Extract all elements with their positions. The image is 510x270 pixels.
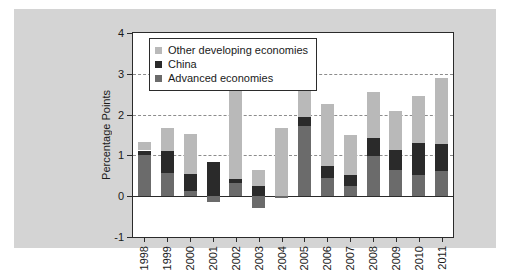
y-axis-title-text: Percentage Points <box>100 90 112 180</box>
bar-group-2006[interactable] <box>321 33 334 237</box>
chart-panel: Percentage Points 43210-1 19981999200020… <box>14 9 496 248</box>
y-tick-4 <box>127 33 133 34</box>
legend-swatch-icon <box>155 47 162 54</box>
x-tick-2003 <box>259 237 260 242</box>
x-tick-2007 <box>350 237 351 242</box>
bar-segment-2003-china <box>252 186 265 196</box>
bar-segment-2006-other-developing-economies <box>321 104 334 166</box>
x-tick-2004 <box>282 237 283 242</box>
legend-label: China <box>168 59 197 70</box>
legend-item-other-developing-economies[interactable]: Other developing economies <box>155 43 308 57</box>
plot-inner: 43210-1 19981999200020012002200320042005… <box>133 33 453 237</box>
y-axis-title: Percentage Points <box>100 32 112 238</box>
bar-segment-2003-other-developing-economies <box>252 170 265 187</box>
bar-segment-2011-china <box>435 144 448 171</box>
bar-segment-2005-china <box>298 117 311 126</box>
bar-segment-1999-other-developing-economies <box>161 128 174 150</box>
bar-segment-2010-china <box>412 143 425 175</box>
bar-group-2008[interactable] <box>367 33 380 237</box>
bar-segment-2002-china <box>229 179 242 183</box>
x-tick-2001 <box>213 237 214 242</box>
bar-segment-2005-advanced-economies <box>298 126 311 196</box>
legend-item-advanced-economies[interactable]: Advanced economies <box>155 71 308 85</box>
plot-area: 43210-1 19981999200020012002200320042005… <box>132 32 454 238</box>
zero-line <box>133 196 453 197</box>
x-tick-label-2008: 2008 <box>367 246 379 270</box>
y-tick-label--1: -1 <box>114 231 124 243</box>
x-tick-label-2009: 2009 <box>390 246 402 270</box>
bar-segment-2002-advanced-economies <box>229 183 242 196</box>
bar-group-2007[interactable] <box>344 33 357 237</box>
bar-segment-1998-other-developing-economies <box>138 142 151 151</box>
bar-segment-2011-other-developing-economies <box>435 78 448 145</box>
x-tick-label-1999: 1999 <box>161 246 173 270</box>
bar-segment-1999-advanced-economies <box>161 173 174 196</box>
y-tick-label-2: 2 <box>118 109 124 121</box>
x-tick-label-2000: 2000 <box>184 246 196 270</box>
x-tick-label-2010: 2010 <box>413 246 425 270</box>
x-tick-label-1998: 1998 <box>138 246 150 270</box>
y-tick-label-0: 0 <box>118 190 124 202</box>
bar-segment-2000-china <box>184 174 197 192</box>
x-tick-label-2007: 2007 <box>344 246 356 270</box>
bar-segment-2002-other-developing-economies <box>229 91 242 178</box>
bar-segment-2007-china <box>344 175 357 186</box>
x-tick-label-2006: 2006 <box>321 246 333 270</box>
x-tick-2006 <box>327 237 328 242</box>
legend-swatch-icon <box>155 61 162 68</box>
bar-segment-2000-other-developing-economies <box>184 134 197 174</box>
bar-segment-1998-china <box>138 151 151 156</box>
legend: Other developing economiesChinaAdvanced … <box>149 38 317 91</box>
legend-label: Other developing economies <box>168 45 308 56</box>
x-tick-2010 <box>419 237 420 242</box>
x-tick-label-2011: 2011 <box>436 246 448 270</box>
y-tick-label-4: 4 <box>118 27 124 39</box>
legend-label: Advanced economies <box>168 73 273 84</box>
y-tick-1 <box>127 155 133 156</box>
x-tick-2008 <box>373 237 374 242</box>
bar-segment-2009-other-developing-economies <box>389 111 402 150</box>
x-tick-2005 <box>304 237 305 242</box>
bar-segment-2008-other-developing-economies <box>367 92 380 138</box>
bar-segment-2010-other-developing-economies <box>412 96 425 143</box>
legend-item-china[interactable]: China <box>155 57 308 71</box>
x-tick-label-2002: 2002 <box>230 246 242 270</box>
y-tick-3 <box>127 74 133 75</box>
x-tick-2009 <box>396 237 397 242</box>
gridline-2 <box>133 115 453 116</box>
bar-segment-2008-china <box>367 138 380 156</box>
bar-segment-2003-advanced-economies <box>252 196 265 208</box>
bar-segment-2009-advanced-economies <box>389 170 402 196</box>
x-tick-2000 <box>190 237 191 242</box>
x-tick-2011 <box>442 237 443 242</box>
bar-segment-2004-advanced-economies <box>275 196 288 198</box>
bar-segment-2001-china <box>207 162 220 197</box>
x-tick-1999 <box>167 237 168 242</box>
bar-group-2011[interactable] <box>435 33 448 237</box>
x-tick-label-2005: 2005 <box>298 246 310 270</box>
bar-segment-2007-advanced-economies <box>344 186 357 197</box>
x-tick-label-2003: 2003 <box>253 246 265 270</box>
x-tick-label-2004: 2004 <box>276 246 288 270</box>
bar-segment-2007-other-developing-economies <box>344 135 357 175</box>
bar-group-2010[interactable] <box>412 33 425 237</box>
bar-segment-1999-china <box>161 151 174 173</box>
x-tick-2002 <box>236 237 237 242</box>
y-tick-label-3: 3 <box>118 68 124 80</box>
bar-segment-2011-advanced-economies <box>435 171 448 196</box>
legend-swatch-icon <box>155 75 162 82</box>
bar-segment-2006-china <box>321 166 334 178</box>
x-tick-1998 <box>144 237 145 242</box>
y-tick-2 <box>127 115 133 116</box>
bar-segment-2004-other-developing-economies <box>275 128 288 196</box>
bar-group-2009[interactable] <box>389 33 402 237</box>
bar-segment-2008-advanced-economies <box>367 156 380 196</box>
y-tick-0 <box>127 196 133 197</box>
bar-segment-2000-advanced-economies <box>184 191 197 196</box>
bar-segment-2006-advanced-economies <box>321 178 334 196</box>
y-tick-label-1: 1 <box>118 149 124 161</box>
bar-segment-2010-advanced-economies <box>412 175 425 196</box>
y-tick--1 <box>127 237 133 238</box>
bar-segment-2001-advanced-economies <box>207 196 220 202</box>
